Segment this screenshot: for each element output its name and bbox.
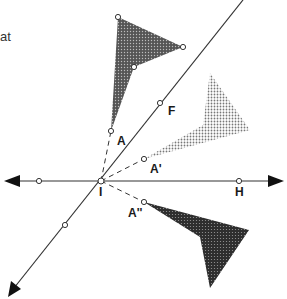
label-A-prime: A' (150, 163, 162, 175)
label-F: F (168, 105, 175, 117)
arrow-right-icon (268, 175, 284, 187)
rotated-dark-arrow-shape (144, 202, 249, 288)
rotated-light-arrow-shape (144, 73, 250, 159)
arrow-down-left-icon (8, 281, 21, 297)
geometry-figure (0, 0, 287, 299)
label-H: H (235, 186, 244, 198)
label-I: I (99, 186, 102, 198)
label-A-double-prime: A'' (128, 207, 142, 219)
diagram-canvas: at (0, 0, 287, 299)
arrow-left-icon (4, 175, 20, 187)
label-A: A (117, 135, 126, 147)
